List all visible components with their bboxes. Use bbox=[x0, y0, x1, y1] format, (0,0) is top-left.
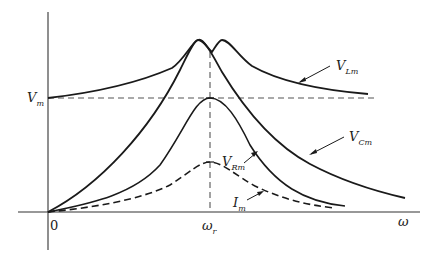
vm-axis-label: Vm bbox=[27, 91, 44, 108]
vlm-main: V bbox=[336, 58, 345, 73]
vlm-label: VLm bbox=[336, 59, 358, 76]
omega-r-sub: r bbox=[213, 227, 217, 236]
origin-text: 0 bbox=[50, 218, 58, 233]
vcm-main: V bbox=[349, 129, 358, 144]
im-arrowhead bbox=[257, 191, 264, 196]
vrm-main: V bbox=[222, 154, 231, 169]
origin-label: 0 bbox=[50, 219, 58, 232]
vm-label-sub: m bbox=[36, 99, 44, 108]
vlm-sub: Lm bbox=[345, 67, 358, 76]
im-label: Im bbox=[233, 196, 246, 213]
vrm-sub: Rm bbox=[231, 163, 245, 172]
vm-label-main: V bbox=[27, 90, 36, 105]
omega-r-label: ωr bbox=[202, 219, 216, 236]
curve-im bbox=[48, 162, 335, 212]
omega-axis-label: ω bbox=[398, 215, 409, 228]
resonance-diagram: Vm 0 ωr ω VLm VCm VRm Im bbox=[0, 0, 436, 260]
im-sub: m bbox=[238, 204, 246, 213]
vcm-label: VCm bbox=[349, 130, 372, 147]
vcm-sub: Cm bbox=[358, 138, 372, 147]
vcm-arrowhead bbox=[309, 149, 317, 155]
omega-r-main: ω bbox=[202, 218, 213, 233]
vlm-arrowhead bbox=[298, 77, 306, 83]
vrm-label: VRm bbox=[222, 155, 245, 172]
omega-text: ω bbox=[398, 214, 409, 229]
curve-vrm bbox=[48, 98, 345, 212]
